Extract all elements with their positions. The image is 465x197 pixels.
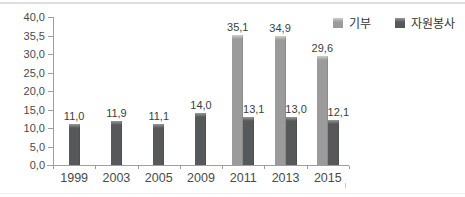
legend-item-자원봉사: 자원봉사 (395, 14, 455, 31)
bar-자원봉사-2015: 12,1 (328, 120, 339, 165)
x-axis-tick (95, 166, 96, 169)
legend-color-swatch (333, 18, 343, 28)
bar-value-label: 35,1 (227, 21, 248, 33)
bar-value-label: 34,9 (269, 22, 290, 34)
category-group: 11,1 (138, 17, 180, 165)
legend-label: 기부 (349, 14, 371, 31)
y-tick-label: 15,0 (0, 104, 45, 116)
bar-기부-2011: 35,1 (232, 35, 243, 165)
chart-legend: 기부자원봉사 (333, 14, 455, 31)
y-tick-label: 10,0 (0, 122, 45, 134)
bar-자원봉사-2011: 13,1 (243, 117, 254, 166)
legend-item-기부: 기부 (333, 14, 371, 31)
y-tick-label: 30,0 (0, 48, 45, 60)
category-group: 11,0 (53, 17, 95, 165)
category-group: 29,612,1 (307, 17, 349, 165)
x-tick-label: 2005 (138, 171, 180, 185)
y-tick-label: 20,0 (0, 85, 45, 97)
bar-기부-2013: 34,9 (275, 36, 286, 165)
x-tick-label: 2013 (264, 171, 306, 185)
x-axis-tick (307, 166, 308, 169)
bar-value-label: 13,1 (243, 103, 264, 115)
y-tick-label: 0,0 (0, 159, 45, 171)
x-axis-tick (349, 166, 350, 169)
bar-기부-2015: 29,6 (317, 56, 328, 166)
bar-value-label: 29,6 (312, 42, 333, 54)
bar-자원봉사-1999: 11,0 (69, 124, 80, 165)
x-tick-label: 1999 (53, 171, 95, 185)
category-group: 34,913,0 (264, 17, 306, 165)
y-tick-label: 35,5 (0, 30, 45, 42)
y-tick-label: 40,0 (0, 11, 45, 23)
bar-자원봉사-2005: 11,1 (153, 124, 164, 165)
x-tick-label: 2003 (95, 171, 137, 185)
top-border-line (0, 2, 465, 4)
bar-자원봉사-2009: 14,0 (195, 113, 206, 165)
bar-자원봉사-2013: 13,0 (286, 117, 297, 165)
y-tick-label: 25,0 (0, 67, 45, 79)
x-axis-tick (138, 166, 139, 169)
stray-tick-mark (345, 183, 346, 188)
y-tick-label: 5,0 (0, 141, 45, 153)
x-tick-label: 2009 (180, 171, 222, 185)
legend-label: 자원봉사 (411, 14, 455, 31)
bar-value-label: 11,0 (64, 110, 85, 122)
bar-chart: 40,035,530,025,020,015,010,05,00,0 11,01… (0, 0, 465, 197)
x-axis-tick (264, 166, 265, 169)
plot-area: 11,011,911,114,035,113,134,913,029,612,1 (53, 17, 349, 165)
category-group: 11,9 (95, 17, 137, 165)
x-tick-label: 2011 (222, 171, 264, 185)
x-tick-label: 2015 (307, 171, 349, 185)
bar-value-label: 12,1 (328, 106, 349, 118)
category-group: 35,113,1 (222, 17, 264, 165)
x-axis-labels: 1999200320052009201120132015 (53, 171, 349, 185)
bar-value-label: 13,0 (285, 103, 306, 115)
bar-value-label: 14,0 (190, 99, 211, 111)
bottom-border-line (0, 193, 465, 194)
x-axis-tick (180, 166, 181, 169)
legend-color-swatch (395, 18, 405, 28)
bar-value-label: 11,1 (148, 110, 169, 122)
category-group: 14,0 (180, 17, 222, 165)
x-axis-tick (222, 166, 223, 169)
x-axis-ticks (53, 166, 349, 170)
bar-value-label: 11,9 (106, 107, 127, 119)
bar-자원봉사-2003: 11,9 (111, 121, 122, 165)
x-axis-tick (53, 166, 54, 169)
